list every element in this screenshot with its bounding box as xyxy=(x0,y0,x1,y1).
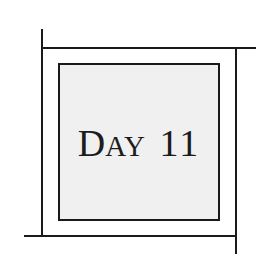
day-number: 11 xyxy=(160,124,201,162)
title-box: DAY11 xyxy=(58,63,220,221)
day-title: DAY11 xyxy=(78,124,200,162)
frame-line-right xyxy=(235,48,237,254)
day-title-rest: AY xyxy=(105,132,145,161)
frame-line-bottom xyxy=(24,235,237,237)
day-title-initial: D xyxy=(78,124,105,162)
frame-line-left xyxy=(41,29,43,237)
frame-line-top xyxy=(42,47,256,49)
